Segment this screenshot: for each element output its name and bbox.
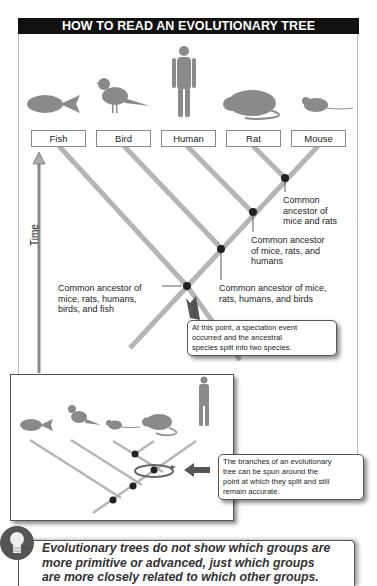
rotation-pointer-arrow-icon [182, 460, 212, 480]
taxon-label-mouse: Mouse [291, 130, 346, 147]
node-note-all: Common ancestor ofmice, rats, humans,bir… [58, 283, 142, 315]
node-note-mice-rats-humans-birds: Common ancestor of mice,rats, humans, an… [219, 283, 327, 304]
mouse-icon [106, 420, 140, 430]
rat-icon [223, 90, 279, 119]
time-arrow-icon [33, 152, 45, 373]
mouse-icon [302, 97, 353, 112]
time-axis-label: Time [29, 224, 40, 246]
fish-icon [27, 95, 80, 113]
fish-icon [20, 419, 53, 431]
node-all [183, 282, 191, 290]
rat-icon [142, 414, 177, 435]
node-note-mice-rats-humans: Common ancestorof mice, rats, andhumans [251, 235, 325, 267]
bird-icon [96, 78, 150, 113]
taxon-label-rat: Rat [226, 130, 281, 147]
taxon-label-fish: Fish [31, 130, 86, 147]
node-mice-rats-humans [249, 208, 257, 216]
rotated-tree-diagram [11, 375, 233, 520]
lightbulb-icon [0, 526, 34, 560]
node-mice-rats-humans-birds [217, 245, 225, 253]
human-icon [172, 46, 196, 117]
taxon-label-bird: Bird [96, 130, 151, 147]
bird-icon [68, 405, 101, 425]
node-note-mice-rats: Commonancestor ofmice and rats [283, 195, 337, 227]
rotated-tree-panel [10, 374, 234, 521]
tip-text: Evolutionary trees do not show which gro… [42, 541, 362, 585]
rotation-callout: The branches of an evolutionarytree can … [218, 454, 364, 500]
speciation-callout: At this point, a speciation eventoccurre… [187, 320, 337, 356]
node-mice-rats [281, 174, 289, 182]
human-icon [199, 377, 209, 427]
taxon-label-human: Human [161, 130, 216, 147]
